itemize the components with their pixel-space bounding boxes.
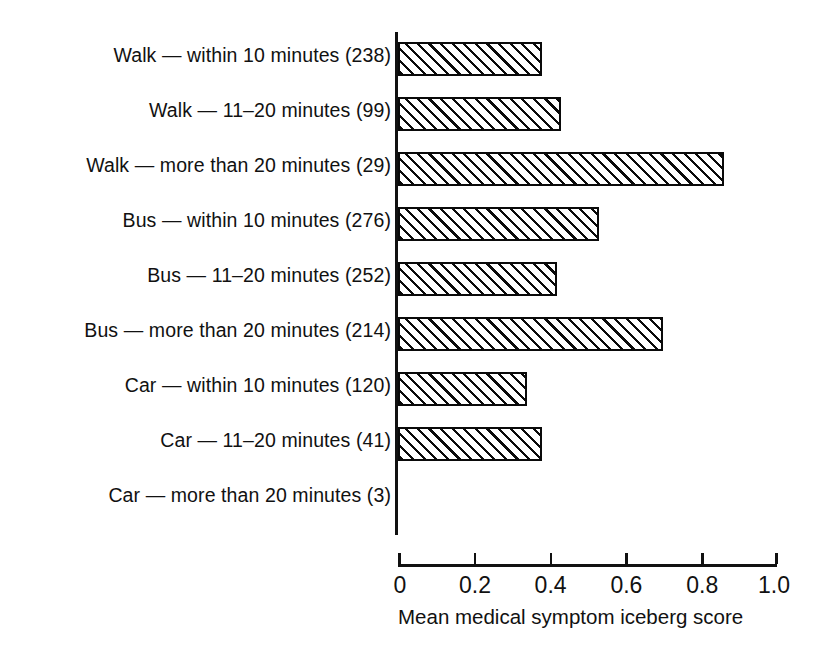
x-tick-label-4: 0.8 bbox=[686, 572, 718, 599]
x-tick-label-3: 0.6 bbox=[610, 572, 642, 599]
category-label-4: Bus — 11–20 minutes (252) bbox=[1, 264, 391, 287]
x-tick-label-2: 0.4 bbox=[535, 572, 567, 599]
bar-5 bbox=[398, 317, 663, 351]
bar-chart: Walk — within 10 minutes (238) Walk — 11… bbox=[0, 0, 820, 669]
x-tick-3 bbox=[625, 553, 628, 564]
category-label-column: Walk — within 10 minutes (238) Walk — 11… bbox=[0, 32, 395, 532]
bar-2 bbox=[398, 152, 724, 186]
category-label-0: Walk — within 10 minutes (238) bbox=[1, 44, 391, 67]
x-tick-label-5: 1.0 bbox=[758, 572, 790, 599]
bar-4 bbox=[398, 262, 557, 296]
category-label-2: Walk — more than 20 minutes (29) bbox=[1, 154, 391, 177]
x-tick-5 bbox=[775, 553, 778, 564]
bar-7 bbox=[398, 427, 542, 461]
category-label-1: Walk — 11–20 minutes (99) bbox=[1, 99, 391, 122]
bar-0 bbox=[398, 42, 542, 76]
category-label-8: Car — more than 20 minutes (3) bbox=[1, 484, 391, 507]
x-axis: 0 0.2 0.4 0.6 0.8 1.0 bbox=[398, 564, 777, 567]
category-label-5: Bus — more than 20 minutes (214) bbox=[1, 319, 391, 342]
bar-3 bbox=[398, 207, 599, 241]
x-tick-0 bbox=[398, 553, 401, 564]
x-tick-label-0: 0 bbox=[394, 572, 407, 599]
category-label-7: Car — 11–20 minutes (41) bbox=[1, 429, 391, 452]
category-label-6: Car — within 10 minutes (120) bbox=[1, 374, 391, 397]
bar-6 bbox=[398, 372, 527, 406]
x-axis-title: Mean medical symptom iceberg score bbox=[398, 605, 820, 629]
bar-1 bbox=[398, 97, 561, 131]
x-tick-4 bbox=[701, 553, 704, 564]
category-label-3: Bus — within 10 minutes (276) bbox=[1, 209, 391, 232]
x-tick-1 bbox=[474, 553, 477, 564]
x-tick-label-1: 0.2 bbox=[459, 572, 491, 599]
x-tick-2 bbox=[550, 553, 553, 564]
plot-area bbox=[398, 32, 777, 532]
